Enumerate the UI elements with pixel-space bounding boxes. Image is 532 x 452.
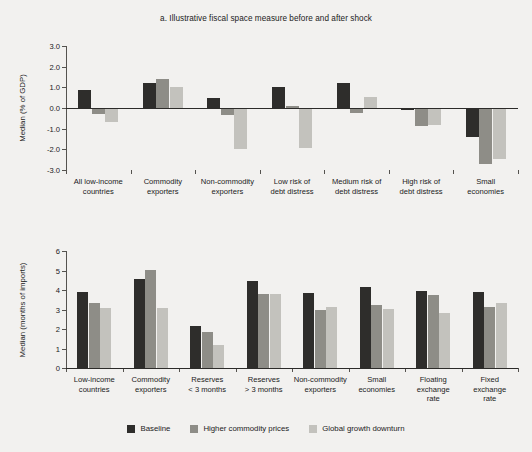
x-tick: [131, 170, 132, 174]
bar: [145, 270, 156, 368]
x-category-line: Fixed: [456, 375, 525, 385]
bar: [439, 313, 450, 368]
y-tick-label: 6: [56, 247, 60, 256]
bar: [100, 308, 111, 368]
x-tick: [389, 170, 390, 174]
y-tick-label: 2.0: [49, 62, 60, 71]
bar: [89, 303, 100, 368]
y-tick-label: 0: [56, 364, 60, 373]
bar: [258, 294, 269, 368]
bar: [416, 291, 427, 368]
zero-baseline: [66, 368, 518, 369]
bar: [428, 108, 441, 125]
x-category-line: economies: [447, 187, 524, 197]
bar: [207, 98, 220, 108]
panel-b-y-axis-label: Median (months of imports): [18, 262, 27, 357]
bar: [270, 294, 281, 368]
x-tick: [260, 170, 261, 174]
y-tick-label: -3.0: [47, 166, 60, 175]
bar: [190, 326, 201, 368]
bar: [78, 90, 91, 108]
zero-baseline: [66, 108, 518, 109]
y-tick: [62, 271, 66, 272]
bar: [473, 292, 484, 368]
bar: [428, 295, 439, 368]
x-axis-end-cap: [66, 170, 67, 174]
bar: [157, 308, 168, 368]
legend-swatch: [127, 425, 135, 433]
legend-label: Higher commodity prices: [203, 424, 289, 433]
legend-item: Baseline: [127, 424, 170, 433]
y-tick-label: -1.0: [47, 124, 60, 133]
bar: [156, 79, 169, 108]
legend-swatch: [309, 425, 317, 433]
bar: [105, 108, 118, 122]
panel-a-y-axis-label: Median (% of GDP): [18, 74, 27, 142]
x-tick: [324, 170, 325, 174]
bar: [415, 108, 428, 126]
bar: [213, 345, 224, 368]
y-tick: [62, 349, 66, 350]
bar: [221, 108, 234, 115]
panel-a-title: a. Illustrative fiscal space measure bef…: [0, 14, 532, 23]
panel-b-y-axis: [66, 251, 67, 368]
bar: [202, 332, 213, 368]
bar: [466, 108, 479, 137]
bar: [170, 87, 183, 108]
bar: [299, 108, 312, 148]
bar: [77, 292, 88, 368]
y-tick-label: 1.0: [49, 83, 60, 92]
y-tick: [62, 290, 66, 291]
y-tick-label: 3.0: [49, 42, 60, 51]
bar: [143, 83, 156, 108]
x-category-line: Small: [447, 177, 524, 187]
x-category-line: exchange: [456, 385, 525, 395]
x-category-label: Smalleconomies: [447, 177, 524, 196]
y-tick: [62, 46, 66, 47]
legend-swatch: [190, 425, 198, 433]
bar: [383, 309, 394, 368]
y-tick-label: 0.0: [49, 104, 60, 113]
bar: [234, 108, 247, 149]
bar: [360, 287, 371, 368]
y-tick-label: 4: [56, 286, 60, 295]
y-tick-label: 3: [56, 305, 60, 314]
bar: [272, 87, 285, 108]
bar: [479, 108, 492, 164]
x-tick: [195, 170, 196, 174]
bar: [134, 279, 145, 368]
bar: [315, 310, 326, 368]
bar: [247, 281, 258, 368]
y-tick: [62, 67, 66, 68]
y-tick: [62, 129, 66, 130]
bar: [326, 307, 337, 368]
bar: [337, 83, 350, 108]
y-tick-label: 1: [56, 344, 60, 353]
y-tick: [62, 251, 66, 252]
x-axis-end-cap: [518, 368, 519, 372]
y-tick: [62, 329, 66, 330]
panel-b-plot-area: Median (months of imports) 6543210: [66, 251, 518, 368]
y-tick-label: -2.0: [47, 145, 60, 154]
legend-label: Global growth downturn: [322, 424, 404, 433]
bar: [496, 303, 507, 368]
legend-item: Higher commodity prices: [190, 424, 289, 433]
legend: BaselineHigher commodity pricesGlobal gr…: [0, 424, 532, 433]
x-tick: [453, 170, 454, 174]
panel-a-plot-area: Median (% of GDP) 3.02.01.00.0-1.0-2.0-3…: [66, 46, 518, 170]
y-tick: [62, 149, 66, 150]
bar: [303, 293, 314, 368]
y-tick: [62, 310, 66, 311]
x-category-line: rate: [456, 394, 525, 404]
panel-a-fiscal-space: a. Illustrative fiscal space measure bef…: [0, 0, 532, 226]
legend-label: Baseline: [140, 424, 170, 433]
y-tick-label: 5: [56, 266, 60, 275]
bar: [493, 108, 506, 159]
bar: [371, 305, 382, 368]
figure-container: a. Illustrative fiscal space measure bef…: [0, 0, 532, 452]
bar: [484, 307, 495, 368]
y-tick: [62, 87, 66, 88]
y-tick-label: 2: [56, 325, 60, 334]
x-axis-end-cap: [518, 170, 519, 174]
bar: [364, 97, 377, 108]
